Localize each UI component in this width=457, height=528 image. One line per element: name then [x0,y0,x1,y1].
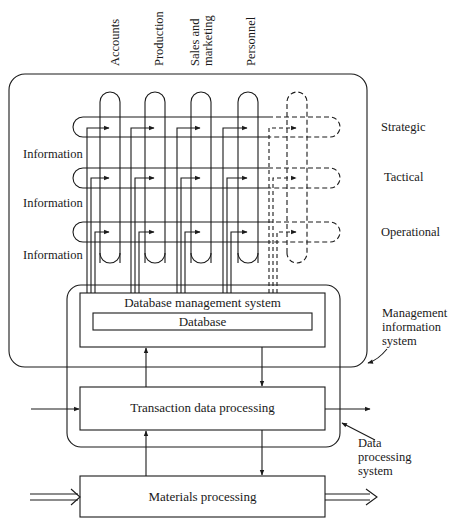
function-label-sales-line2: marketing [202,15,215,66]
transaction-label: Transaction data processing [80,400,325,416]
information-label-2: Information [23,196,83,210]
level-loops [73,117,268,242]
materials-label: Materials processing [80,489,325,505]
level-label-operational: Operational [381,225,440,239]
function-label-accounts: Accounts [109,19,122,66]
dps-label-line3: system [358,464,393,478]
level-label-strategic: Strategic [381,120,425,134]
information-label-3: Information [23,248,83,262]
function-label-personnel: Personnel [245,17,258,66]
diagram-canvas [0,0,457,528]
future-function-loop [287,92,307,263]
level-label-tactical: Tactical [384,170,423,184]
mis-label-line1: Management [382,306,447,320]
information-flows [87,128,247,293]
information-label-1: Information [23,147,83,161]
dps-label-line2: processing [358,450,411,464]
mis-label-line2: information [382,320,441,334]
dbms-label: Database management system [80,295,325,311]
function-label-production: Production [153,11,166,66]
database-label: Database [93,314,312,330]
dps-label-line1: Data [358,436,382,450]
mis-label-line3: system [382,334,417,348]
